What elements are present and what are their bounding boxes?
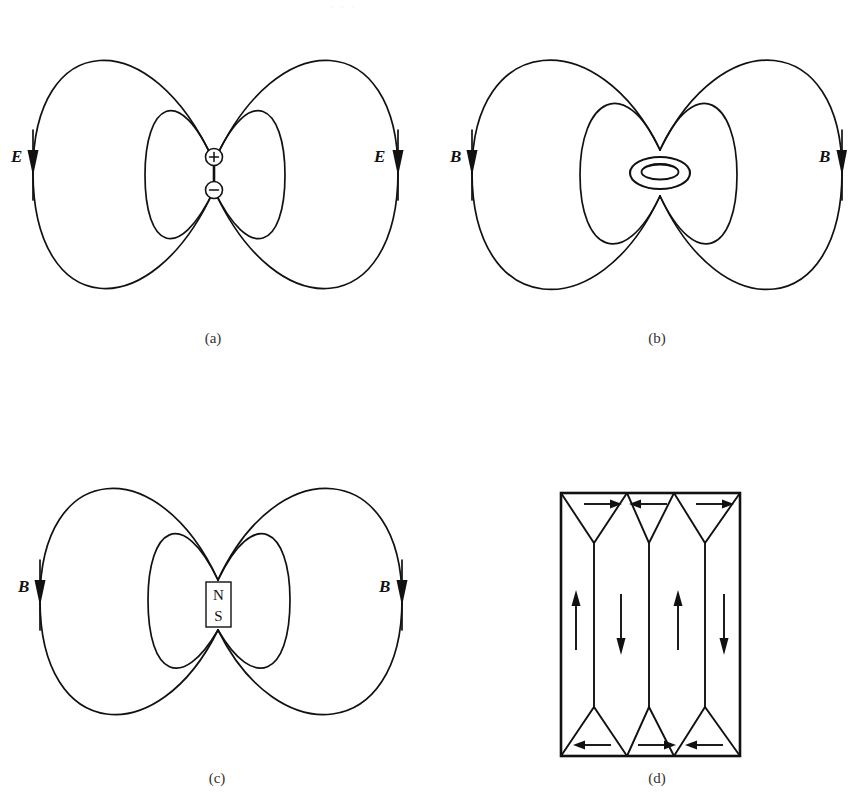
field-arrow-head-left-b bbox=[467, 150, 478, 176]
magnet-north-pole-label: N bbox=[213, 587, 224, 603]
field-label-left-c: B bbox=[17, 577, 29, 596]
field-line-outer-left-a bbox=[33, 60, 214, 288]
field-arrow-head-right-a bbox=[393, 150, 404, 176]
panel-d: (d) bbox=[561, 493, 740, 787]
field-line-outer-left-c bbox=[40, 488, 218, 714]
field-arrow-head-left-c bbox=[35, 580, 46, 606]
bar-magnet-c: N S bbox=[206, 582, 231, 627]
panel-caption-b: (b) bbox=[648, 330, 666, 347]
figure-canvas: E E (a) B B bbox=[0, 0, 848, 806]
field-line-inner-left-a bbox=[145, 111, 214, 239]
field-line-inner-right-a bbox=[214, 111, 285, 239]
current-loop-torus-b bbox=[630, 157, 690, 189]
panel-caption-a: (a) bbox=[205, 330, 222, 347]
field-label-left-a: E bbox=[10, 147, 22, 166]
figure-root: · · · E E (a) bbox=[0, 0, 848, 806]
field-label-left-b: B bbox=[449, 147, 461, 166]
field-label-right-a: E bbox=[373, 147, 385, 166]
panel-b: B B (b) bbox=[449, 60, 847, 347]
field-line-outer-right-a bbox=[214, 60, 398, 288]
panel-caption-d: (d) bbox=[648, 770, 666, 787]
field-arrow-head-left-a bbox=[28, 150, 39, 176]
panel-c: B B N S (c) bbox=[17, 488, 408, 787]
panel-caption-c: (c) bbox=[209, 770, 226, 787]
magnet-south-pole-label: S bbox=[214, 608, 222, 624]
field-arrow-head-right-c bbox=[397, 580, 408, 606]
field-arrow-head-right-b bbox=[837, 150, 848, 176]
panel-a: E E (a) bbox=[10, 60, 404, 347]
field-label-right-c: B bbox=[378, 577, 390, 596]
field-line-outer-right-c bbox=[218, 488, 402, 714]
field-label-right-b: B bbox=[818, 147, 830, 166]
